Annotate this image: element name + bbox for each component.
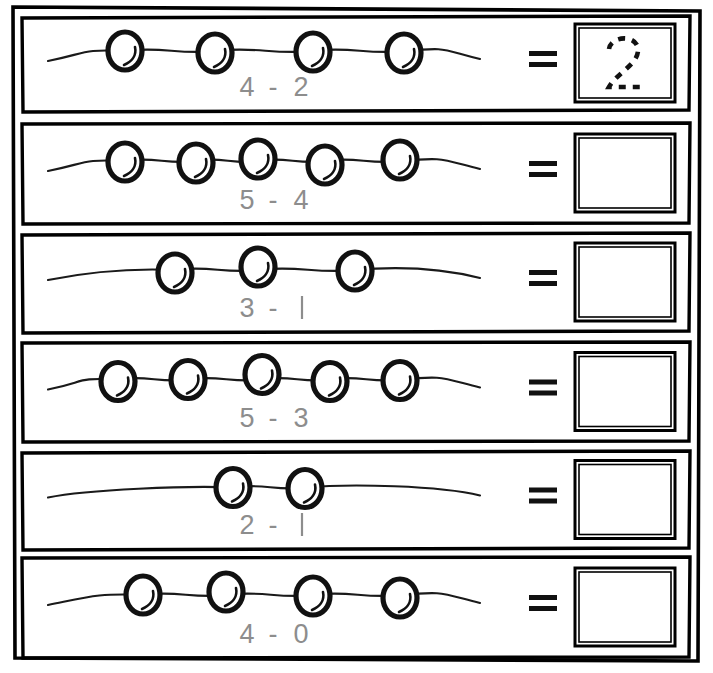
- expression-minuend: 5: [239, 403, 256, 433]
- bead-counter[interactable]: [209, 573, 243, 611]
- expression: 2-: [239, 510, 302, 540]
- bead-counter[interactable]: [383, 579, 417, 617]
- expression-minuend: 4: [239, 72, 256, 102]
- expression-minuend: 2: [239, 510, 256, 540]
- expression-minuend: 4: [239, 619, 256, 649]
- bead-counter[interactable]: [241, 248, 275, 286]
- problem-row: 5-4: [22, 123, 690, 224]
- bead-counter[interactable]: [108, 32, 142, 70]
- expression: 5-3: [239, 403, 310, 433]
- equals-sign: [529, 595, 557, 611]
- bead-counter[interactable]: [171, 361, 205, 399]
- minus-sign: -: [269, 293, 280, 323]
- equals-sign: [529, 270, 557, 286]
- bead-string-line: [48, 486, 480, 498]
- minus-sign: -: [269, 510, 280, 540]
- bead-counter[interactable]: [126, 576, 160, 614]
- problem-row: 5-3: [22, 342, 690, 442]
- answer-box[interactable]: [575, 461, 675, 539]
- worksheet-page: 4-25-43-5-32-4-0: [0, 0, 713, 673]
- bead-counter[interactable]: [241, 140, 275, 178]
- bead-counter[interactable]: [198, 34, 232, 72]
- expression: 4-2: [239, 72, 310, 102]
- rows-layer: 4-25-43-5-32-4-0: [22, 16, 690, 658]
- answer-box[interactable]: [575, 353, 675, 431]
- bead-counter[interactable]: [288, 470, 322, 508]
- expression: 5-4: [239, 185, 310, 215]
- answer-box[interactable]: [575, 24, 675, 102]
- bead-counter[interactable]: [338, 252, 372, 290]
- bead-counter[interactable]: [387, 34, 421, 72]
- equals-sign: [529, 380, 557, 396]
- answer-box-border: [575, 24, 675, 102]
- bead-counter[interactable]: [383, 362, 417, 400]
- bead-counter[interactable]: [216, 469, 250, 507]
- minus-sign: -: [269, 185, 280, 215]
- minus-sign: -: [269, 72, 280, 102]
- minus-sign: -: [269, 619, 280, 649]
- answer-box-border: [575, 461, 675, 539]
- equals-sign: [529, 51, 557, 67]
- bead-counter[interactable]: [308, 146, 342, 184]
- bead-counter[interactable]: [108, 143, 142, 181]
- expression-minuend: 3: [239, 293, 256, 323]
- problem-row: 4-0: [22, 557, 690, 658]
- answer-box-border: [575, 353, 675, 431]
- bead-counter[interactable]: [101, 363, 135, 401]
- answer-box-border: [575, 134, 675, 212]
- answer-box[interactable]: [575, 134, 675, 212]
- answer-box[interactable]: [575, 243, 675, 321]
- expression-minuend: 5: [239, 185, 256, 215]
- answer-box-border: [575, 568, 675, 646]
- equals-sign: [529, 488, 557, 504]
- minus-sign: -: [269, 403, 280, 433]
- expression-subtrahend: 3: [293, 403, 310, 433]
- bead-counter[interactable]: [313, 363, 347, 401]
- equals-sign: [529, 161, 557, 177]
- expression: 4-0: [239, 619, 310, 649]
- bead-counter[interactable]: [245, 356, 279, 394]
- bead-counter[interactable]: [158, 254, 192, 292]
- problem-row: 3-: [22, 233, 690, 333]
- bead-counter[interactable]: [179, 144, 213, 182]
- expression-subtrahend: 2: [293, 72, 310, 102]
- problem-row: 4-2: [22, 16, 690, 112]
- problem-row: 2-: [22, 451, 690, 550]
- expression-subtrahend: 4: [293, 185, 310, 215]
- bead-counter[interactable]: [383, 141, 417, 179]
- bead-counter[interactable]: [296, 33, 330, 71]
- bead-counter[interactable]: [296, 577, 330, 615]
- answer-box[interactable]: [575, 568, 675, 646]
- expression-subtrahend: 0: [293, 619, 310, 649]
- expression: 3-: [239, 293, 302, 323]
- answer-box-border: [575, 243, 675, 321]
